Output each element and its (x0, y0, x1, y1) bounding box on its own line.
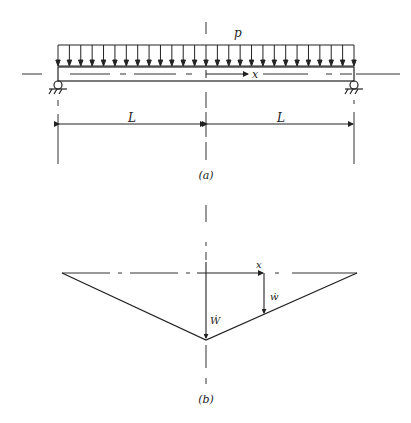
load-label-p: p (234, 26, 242, 40)
load-arrow-icon (158, 60, 162, 66)
load-arrow-icon (56, 60, 60, 66)
span-label-right: L (276, 111, 285, 125)
load-arrow-icon (295, 60, 299, 66)
load-arrow-icon (204, 60, 208, 66)
load-arrow-icon (192, 60, 196, 66)
load-arrow-icon (283, 60, 287, 66)
load-arrow-icon (329, 60, 333, 66)
center-velocity-label: Ẇ (210, 315, 221, 326)
local-velocity-label: ẇ (270, 291, 279, 302)
distributed-load (56, 45, 356, 66)
caption-b: (b) (198, 393, 214, 406)
dimension-line-left: L (59, 111, 205, 125)
load-arrow-icon (318, 60, 322, 66)
load-arrow-icon (67, 60, 71, 66)
velocity-profile (62, 273, 357, 340)
load-arrows (56, 45, 356, 66)
load-arrow-icon (215, 60, 219, 66)
caption-a: (a) (198, 169, 213, 182)
span-label-left: L (127, 111, 136, 125)
load-arrow-icon (170, 60, 174, 66)
x-axis-label-b: x (256, 259, 262, 270)
load-arrow-icon (181, 60, 185, 66)
load-arrow-icon (90, 60, 94, 66)
figure-a: p x (22, 22, 400, 182)
load-arrow-icon (272, 60, 276, 66)
load-arrow-icon (113, 60, 117, 66)
load-arrow-icon (79, 60, 83, 66)
load-arrow-icon (147, 60, 151, 66)
load-arrow-icon (135, 60, 139, 66)
x-axis-label-a: x (252, 68, 259, 81)
load-arrow-icon (340, 60, 344, 66)
load-arrow-icon (238, 60, 242, 66)
load-arrow-icon (124, 60, 128, 66)
left-roller-support (49, 81, 67, 94)
local-velocity-arrow: ẇ (264, 273, 279, 313)
x-axis-arrow-a: x (206, 68, 259, 81)
load-arrow-icon (306, 60, 310, 66)
beam-diagram: p x (0, 0, 411, 423)
dimension-line-right: L (207, 111, 353, 125)
load-arrow-icon (261, 60, 265, 66)
load-arrow-icon (227, 60, 231, 66)
load-arrow-icon (352, 60, 356, 66)
x-axis-arrow-b: x (197, 259, 263, 273)
load-arrow-icon (249, 60, 253, 66)
load-arrow-icon (101, 60, 105, 66)
figure-b: x ẇ Ẇ (b) (62, 205, 357, 406)
right-roller-support (345, 81, 363, 94)
